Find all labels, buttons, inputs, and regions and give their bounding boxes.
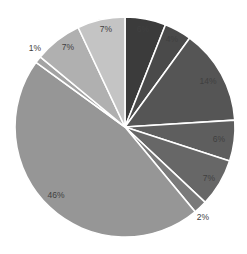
- slice-label: 6%: [213, 134, 226, 144]
- slice-label: 6%: [137, 24, 150, 34]
- slice-label: 4%: [166, 34, 179, 44]
- slice-label: 14%: [199, 76, 216, 86]
- slice-label: 1%: [29, 43, 42, 53]
- slice-label: 46%: [47, 190, 64, 200]
- slice-label: 7%: [100, 24, 113, 34]
- pie-slices: [15, 17, 235, 237]
- pie-chart: 6%4%14%6%7%2%46%1%7%7%: [0, 0, 247, 254]
- slice-label: 7%: [203, 173, 216, 183]
- slice-label: 2%: [197, 212, 210, 222]
- slice-label: 7%: [62, 42, 75, 52]
